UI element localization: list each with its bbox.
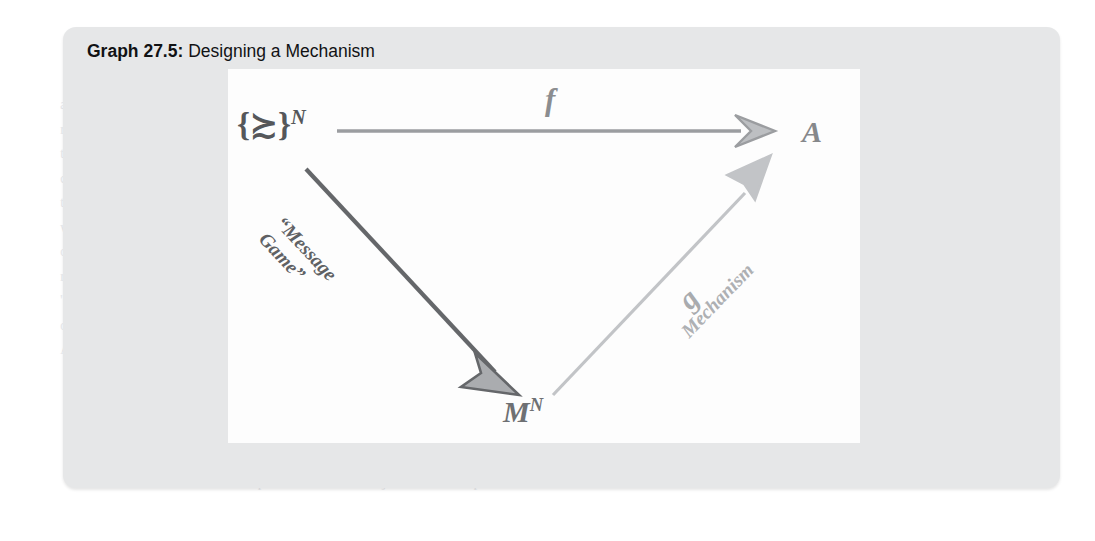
node-alternatives-label: A: [802, 115, 822, 148]
edge-label-f: f: [545, 82, 555, 118]
node-messages-superscript: N: [530, 394, 543, 415]
node-preference-profiles-label: {≿}: [237, 107, 291, 143]
edge-g-arrowhead: [727, 155, 771, 200]
figure-card: Graph 27.5: Designing a Mechanism: [63, 27, 1060, 488]
node-preference-profiles-superscript: N: [291, 106, 306, 128]
node-messages: MN: [503, 395, 543, 429]
edge-message-game: [306, 169, 519, 395]
diagram-svg: [63, 27, 1060, 488]
edge-message-game-arrowhead: [461, 353, 519, 395]
edge-f: [337, 115, 775, 147]
node-alternatives: A: [802, 115, 822, 149]
node-preference-profiles: {≿}N: [237, 105, 306, 144]
figure-page: a process of Graph revealed a the same c…: [0, 0, 1095, 541]
node-messages-label: M: [503, 395, 530, 428]
